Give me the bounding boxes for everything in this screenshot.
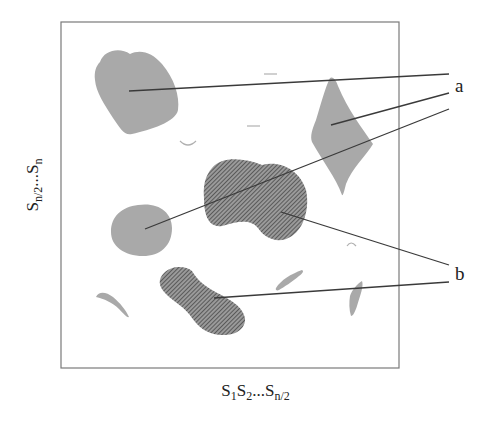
region-b-small-blob [160,267,245,335]
x-label-part: ...S [252,381,274,400]
y-label-part: ...S [23,164,42,186]
region-a-round-blob [111,204,172,256]
diagram-canvas [0,0,491,424]
stray-arc-mark [347,243,356,246]
region-a-right-sliver [349,281,362,316]
region-a-top-left-blob [95,50,179,134]
region-a-diamond [311,77,373,195]
leader-lines-b [214,212,449,298]
y-label-sub: n [31,158,45,164]
x-axis-label: S1S2...Sn/2 [0,381,491,404]
stray-arc-mark [180,141,196,145]
x-label-part: S [221,381,230,400]
region-a-mid-sliver [276,270,303,290]
y-label-sub: n/2 [31,187,45,202]
callout-label-b: b [455,263,465,285]
y-axis-label: Sn/2...Sn [23,158,46,211]
x-label-sub: n/2 [274,389,289,403]
x-label-part: S [237,381,246,400]
region-a-left-sliver [96,293,129,317]
callout-label-a: a [455,75,463,97]
y-label-part: S [23,202,42,211]
